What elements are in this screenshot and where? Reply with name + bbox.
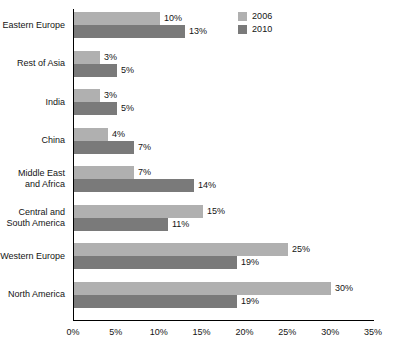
bar-2006 <box>74 166 134 179</box>
bar-row: 5% <box>74 64 394 77</box>
bar-row: 7% <box>74 166 394 179</box>
x-tick-label: 20% <box>224 327 264 338</box>
bar-value-label: 3% <box>104 52 117 63</box>
bar-value-label: 5% <box>121 103 134 114</box>
bar-group: Rest of Asia3%5% <box>0 51 395 77</box>
bar-row: 10% <box>74 12 394 25</box>
bar-group: Middle East and Africa7%14% <box>0 166 395 192</box>
bar-value-label: 5% <box>121 65 134 76</box>
bar-group: Central and South America15%11% <box>0 205 395 231</box>
bar-value-label: 7% <box>138 142 151 153</box>
bar-value-label: 14% <box>198 180 216 191</box>
category-label: Rest of Asia <box>0 58 65 69</box>
bar-row: 13% <box>74 25 394 38</box>
bar-row: 3% <box>74 51 394 64</box>
category-label: Eastern Europe <box>0 20 65 31</box>
bar-2010 <box>74 141 134 154</box>
bar-group: Eastern Europe10%13% <box>0 12 395 38</box>
bar-row: 7% <box>74 141 394 154</box>
bar-value-label: 7% <box>138 167 151 178</box>
x-tick-label: 35% <box>353 327 393 338</box>
bar-group: Western Europe25%19% <box>0 243 395 269</box>
bar-2006 <box>74 282 331 295</box>
plot-area: Eastern Europe10%13%Rest of Asia3%5%Indi… <box>0 0 395 358</box>
bar-row: 19% <box>74 295 394 308</box>
category-label: North America <box>0 289 65 300</box>
bar-2006 <box>74 205 203 218</box>
bar-row: 11% <box>74 218 394 231</box>
bar-2006 <box>74 128 108 141</box>
bar-2006 <box>74 51 100 64</box>
bar-2010 <box>74 64 117 77</box>
category-label: Western Europe <box>0 251 65 262</box>
bar-value-label: 11% <box>172 219 189 230</box>
bar-row: 3% <box>74 89 394 102</box>
x-tick-label: 10% <box>139 327 179 338</box>
bar-group: India3%5% <box>0 89 395 115</box>
x-tick-label: 0% <box>53 327 93 338</box>
bar-2010 <box>74 25 185 38</box>
bar-row: 15% <box>74 205 394 218</box>
bar-2010 <box>74 102 117 115</box>
bar-row: 25% <box>74 243 394 256</box>
bar-value-label: 15% <box>207 206 225 217</box>
bar-row: 4% <box>74 128 394 141</box>
bar-row: 19% <box>74 256 394 269</box>
bar-row: 5% <box>74 102 394 115</box>
x-tick-label: 5% <box>96 327 136 338</box>
category-label: China <box>0 135 65 146</box>
bar-2006 <box>74 89 100 102</box>
x-axis-line <box>73 320 374 321</box>
x-tick-label: 15% <box>182 327 222 338</box>
bar-row: 30% <box>74 282 394 295</box>
bar-2010 <box>74 218 168 231</box>
bar-value-label: 10% <box>164 13 182 24</box>
category-label: Middle East and Africa <box>0 168 65 190</box>
bar-value-label: 19% <box>241 257 259 268</box>
bar-group: North America30%19% <box>0 282 395 308</box>
bar-2010 <box>74 179 194 192</box>
category-label: India <box>0 97 65 108</box>
category-label: Central and South America <box>0 207 65 229</box>
bar-2006 <box>74 12 160 25</box>
bar-2006 <box>74 243 288 256</box>
bar-2010 <box>74 295 237 308</box>
x-tick-label: 25% <box>267 327 307 338</box>
bar-value-label: 13% <box>189 26 207 37</box>
bar-value-label: 25% <box>292 244 310 255</box>
x-tick-label: 30% <box>310 327 350 338</box>
bar-value-label: 4% <box>112 129 125 140</box>
bar-value-label: 19% <box>241 296 259 307</box>
bar-2010 <box>74 256 237 269</box>
bar-value-label: 30% <box>335 283 353 294</box>
bar-chart: 2006 2010 Eastern Europe10%13%Rest of As… <box>0 0 395 358</box>
bar-row: 14% <box>74 179 394 192</box>
bar-value-label: 3% <box>104 90 117 101</box>
bar-group: China4%7% <box>0 128 395 154</box>
